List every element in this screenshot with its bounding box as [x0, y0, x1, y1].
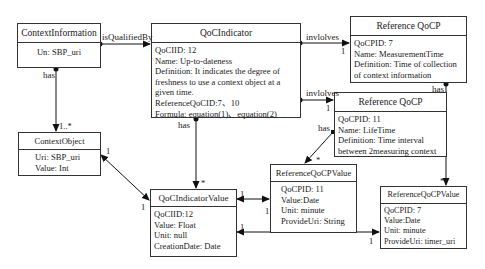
attribute: Definition: Time of collection of contex… [354, 59, 463, 80]
attribute: QoCIID: 12 [155, 45, 297, 56]
class-qoc-indicator-value[interactable]: QoCIndicatorValue QoCIID:12 Value: Float… [150, 189, 237, 257]
attribute: QoCPID: 7 [384, 206, 463, 216]
attribute: Unit: minute [384, 226, 463, 236]
attribute: Unit: null [154, 230, 233, 241]
label-qocp7-has: has [432, 84, 444, 94]
class-name: ContextObject [19, 133, 100, 150]
class-name: Reference QoCP [351, 17, 466, 36]
label-involves-1: invlolves [306, 32, 339, 42]
mult-qociv-rv11-a: 1 [240, 190, 244, 199]
class-name: QoCIndicatorValue [151, 190, 236, 207]
label-qocp11-has: has [318, 123, 330, 133]
attribute: QoCIID:12 [154, 209, 233, 220]
mult-ci-co: 1..* [59, 122, 72, 131]
mult-co-qociv-b: 1 [141, 203, 145, 212]
class-name: ContextInformation [18, 24, 100, 43]
class-name: Reference QoCP [335, 93, 446, 112]
label-qoci-has: has [178, 120, 190, 130]
attribute: Unit: minute [281, 205, 353, 216]
class-name: ReferenceQoCPValue [381, 187, 466, 204]
label-is-qualified-by: isQualifiedBy [102, 32, 153, 42]
class-reference-qocp-value-7[interactable]: ReferenceQoCPValue QoCPID: 7 Value:Date … [380, 186, 467, 249]
attribute: Value:Date [384, 216, 463, 226]
label-ci-has: has [43, 70, 55, 80]
attribute: Name: Up-to-dateness [155, 56, 297, 67]
class-context-object[interactable]: ContextObject Uri: SBP_uri Value: Int [18, 132, 101, 176]
attribute: Definition: It indicates the degree of f… [155, 66, 297, 98]
attribute: ReferenceQoCID:7、10 [155, 98, 297, 109]
attribute: Value: Float [154, 220, 233, 231]
class-reference-qocp-7[interactable]: Reference QoCP QoCPID: 7 Name: Measureme… [350, 16, 467, 83]
attribute: QoCPID: 7 [354, 38, 463, 49]
attribute: Value:Date [281, 195, 353, 206]
mult-qocp7-value: * [440, 177, 444, 186]
attribute: Value: Int [35, 163, 97, 174]
attribute: Name: MeasurementTime [354, 49, 463, 60]
attribute: ProvideUri: timer_uri [384, 237, 463, 247]
class-context-information[interactable]: ContextInformation Un: SBP_uri [17, 23, 101, 68]
mult-qociv-rv7-a: 1 [240, 223, 244, 232]
label-involves-2: invlolves [306, 88, 339, 98]
attribute: Un: SBP_uri [21, 47, 97, 58]
co-qociv-line [101, 155, 149, 200]
attribute: QoCPID: 11 [338, 114, 443, 125]
class-name: ReferenceQoCPValue [271, 165, 356, 182]
mult-involves1-target: 1 [341, 47, 345, 56]
attribute: ProvideUri: String [281, 216, 353, 227]
attribute: Definition: Time interval between 2measu… [338, 135, 443, 156]
attribute: Uri: SBP_uri [35, 152, 97, 163]
attribute: Name: LifeTime [338, 125, 443, 136]
mult-qoci-qociv: * [201, 179, 205, 188]
attribute: QoCPID: 11 [281, 184, 353, 195]
mult-involves2-target: 1 [326, 104, 330, 113]
attribute: Formula: equation(1)、equation(2) [155, 109, 297, 120]
class-qoc-indicator[interactable]: QoCIndicator QoCIID: 12 Name: Up-to-date… [151, 23, 301, 118]
class-reference-qocp-11[interactable]: Reference QoCP QoCPID: 11 Name: LifeTime… [334, 92, 447, 157]
class-reference-qocp-value-11[interactable]: ReferenceQoCPValue QoCPID: 11 Value:Date… [270, 164, 357, 233]
mult-co-qociv-a: 1 [106, 147, 110, 156]
attribute: CreationDate: Date [154, 241, 233, 252]
mult-qocp11-value: * [316, 156, 320, 165]
mult-qociv-rv11-b: 1 [265, 207, 269, 216]
class-name: QoCIndicator [152, 24, 300, 43]
mult-qociv-rv7-b: 1 [369, 237, 373, 246]
